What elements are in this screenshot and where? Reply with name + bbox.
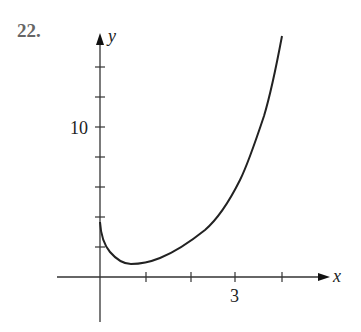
curve <box>100 36 282 264</box>
x-tick-label-3: 3 <box>230 286 239 306</box>
y-axis-label: y <box>106 26 116 46</box>
x-axis-label: x <box>332 266 341 286</box>
x-axis-arrow-icon <box>318 273 330 281</box>
y-axis-arrow-icon <box>96 33 104 45</box>
chart: y x 10 3 <box>0 0 361 332</box>
y-tick-label-10: 10 <box>70 118 88 138</box>
